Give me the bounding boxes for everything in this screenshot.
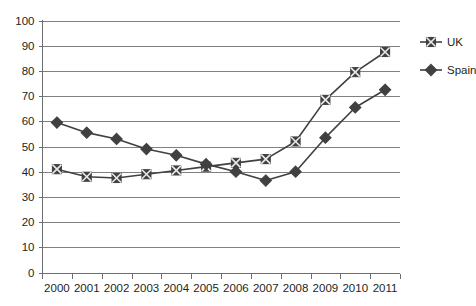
x-tick-label-2007: 2007 [253, 282, 279, 294]
y-tick-label-10: 10 [22, 241, 35, 253]
y-tick-label-60: 60 [22, 115, 35, 127]
y-tick-label-50: 50 [22, 141, 35, 153]
x-tick-label-2000: 2000 [44, 282, 70, 294]
y-tick-label-20: 20 [22, 216, 35, 228]
y-tick-label-0: 0 [28, 267, 34, 279]
x-tick-label-2004: 2004 [163, 282, 189, 294]
y-tick-label-30: 30 [22, 191, 35, 203]
y-tick-label-80: 80 [22, 65, 35, 77]
x-tick-label-2003: 2003 [134, 282, 160, 294]
x-tick-label-2002: 2002 [104, 282, 130, 294]
legend-label-spain: Spain [447, 64, 476, 76]
x-tick-label-2008: 2008 [283, 282, 309, 294]
chart-canvas: 0102030405060708090100 20002001200220032… [0, 0, 476, 306]
y-tick-label-90: 90 [22, 40, 35, 52]
line-chart: 0102030405060708090100 20002001200220032… [0, 0, 476, 306]
y-tick-label-100: 100 [15, 15, 34, 27]
x-tick-label-2011: 2011 [373, 282, 398, 294]
legend-label-uk: UK [447, 36, 463, 48]
x-tick-label-2006: 2006 [223, 282, 249, 294]
x-tick-label-2001: 2001 [74, 282, 100, 294]
y-tick-label-70: 70 [22, 90, 35, 102]
x-tick-label-2009: 2009 [313, 282, 339, 294]
x-tick-label-2010: 2010 [342, 282, 368, 294]
y-tick-label-40: 40 [22, 166, 35, 178]
x-tick-label-2005: 2005 [193, 282, 219, 294]
chart-background [0, 0, 476, 306]
